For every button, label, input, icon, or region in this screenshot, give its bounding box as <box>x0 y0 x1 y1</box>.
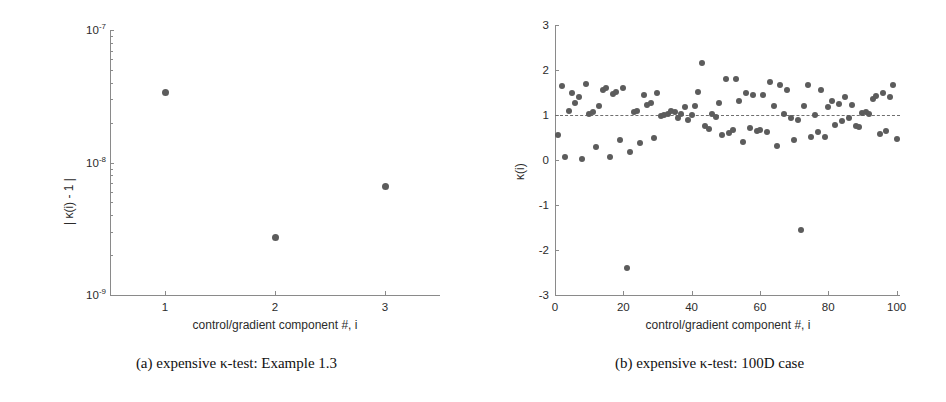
data-point-b <box>788 115 794 121</box>
y-tick-label-a: 10-9 <box>64 289 106 301</box>
y-tick-mantissa-a: 10 <box>86 157 99 169</box>
y-minor-tick-a <box>110 255 113 256</box>
data-point-b <box>812 112 818 118</box>
data-point-b <box>866 111 872 117</box>
caption-b: (b) expensive κ-test: 100D case <box>473 355 946 372</box>
data-point-b <box>808 134 814 140</box>
y-tick-exponent-a: -8 <box>99 155 106 164</box>
y-tick-label-b: 1 <box>527 109 549 121</box>
x-tick-label-a: 2 <box>272 301 278 313</box>
data-point-b <box>641 92 647 98</box>
y-minor-tick-a <box>110 202 113 203</box>
data-point-b <box>781 111 787 117</box>
x-tick-a <box>165 291 166 295</box>
data-point-b <box>846 115 852 121</box>
y-tick-a <box>110 295 114 296</box>
y-tick-b <box>555 295 559 296</box>
data-point-a <box>162 89 169 96</box>
y-axis-title-a-text: | κ(i) - 1 | <box>62 178 76 225</box>
data-point-b <box>706 126 712 132</box>
y-tick-exponent-a: -7 <box>99 22 106 31</box>
data-point-b <box>583 81 589 87</box>
y-minor-tick-a <box>110 99 113 100</box>
y-minor-tick-a <box>110 192 113 193</box>
y-minor-tick-a <box>110 59 113 60</box>
data-point-b <box>764 129 770 135</box>
data-point-b <box>887 94 893 100</box>
y-tick-b <box>555 250 559 251</box>
data-point-b <box>569 90 575 96</box>
figure-container: 12310-910-810-7 control/gradient compone… <box>0 0 946 402</box>
data-point-b <box>617 137 623 143</box>
data-point-b <box>894 136 900 142</box>
y-tick-mantissa-a: 10 <box>86 24 99 36</box>
data-point-b <box>743 90 749 96</box>
data-point-b <box>716 100 722 106</box>
x-tick-label-b: 20 <box>617 301 630 313</box>
x-tick-label-b: 0 <box>552 301 558 313</box>
y-minor-tick-a <box>110 51 113 52</box>
data-point-b <box>713 114 719 120</box>
y-minor-tick-a <box>110 232 113 233</box>
data-point-b <box>771 103 777 109</box>
caption-a: (a) expensive κ-test: Example 1.3 <box>0 355 473 372</box>
data-point-b <box>576 94 582 100</box>
x-tick-label-a: 1 <box>162 301 168 313</box>
data-point-b <box>590 109 596 115</box>
data-point-b <box>832 122 838 128</box>
x-axis-title-a: control/gradient component #, i <box>193 318 358 332</box>
y-tick-b <box>555 160 559 161</box>
y-axis-title-a: | κ(i) - 1 | <box>62 178 76 225</box>
panel-b: 020406080100-3-2-10123 control/gradient … <box>473 0 946 402</box>
x-tick-label-b: 60 <box>754 301 767 313</box>
plot-area-a <box>110 30 440 295</box>
x-tick-b <box>760 291 761 295</box>
data-point-b <box>805 82 811 88</box>
data-point-b <box>593 144 599 150</box>
y-minor-tick-a <box>110 43 113 44</box>
x-tick-label-b: 100 <box>887 301 906 313</box>
data-point-b <box>624 265 630 271</box>
data-point-b <box>607 154 613 160</box>
data-point-b <box>873 93 879 99</box>
y-tick-label-b: -2 <box>527 244 549 256</box>
y-tick-b <box>555 205 559 206</box>
data-point-b <box>692 103 698 109</box>
y-minor-tick-a <box>110 83 113 84</box>
y-tick-label-b: -1 <box>527 199 549 211</box>
data-point-b <box>634 108 640 114</box>
data-point-b <box>829 98 835 104</box>
y-axis-title-b-text: κ(i) <box>513 163 527 180</box>
y-tick-exponent-a: -9 <box>99 287 106 296</box>
x-axis-line-a <box>110 295 440 296</box>
data-point-b <box>836 101 842 107</box>
data-point-b <box>648 100 654 106</box>
x-tick-label-b: 80 <box>822 301 835 313</box>
data-point-b <box>757 127 763 133</box>
y-tick-label-b: 2 <box>527 64 549 76</box>
y-tick-label-a: 10-7 <box>64 24 106 36</box>
y-minor-tick-a <box>110 183 113 184</box>
data-point-b <box>798 227 804 233</box>
x-tick-b <box>897 291 898 295</box>
y-tick-label-b: 3 <box>527 19 549 31</box>
y-tick-a <box>110 30 114 31</box>
data-point-b <box>801 103 807 109</box>
x-axis-line-b <box>555 295 900 296</box>
y-tick-label-b: 0 <box>527 154 549 166</box>
data-point-b <box>815 129 821 135</box>
data-point-b <box>839 118 845 124</box>
data-point-b <box>733 76 739 82</box>
data-point-a <box>272 234 279 241</box>
plot-area-b <box>555 25 900 295</box>
y-tick-label-b: -3 <box>527 289 549 301</box>
x-tick-a <box>275 291 276 295</box>
data-point-b <box>877 131 883 137</box>
y-tick-label-a: 10-8 <box>64 157 106 169</box>
x-tick-b <box>692 291 693 295</box>
data-point-b <box>627 149 633 155</box>
data-point-b <box>747 125 753 131</box>
y-axis-title-b: κ(i) <box>513 163 527 180</box>
data-point-b <box>559 83 565 89</box>
data-point-b <box>730 127 736 133</box>
